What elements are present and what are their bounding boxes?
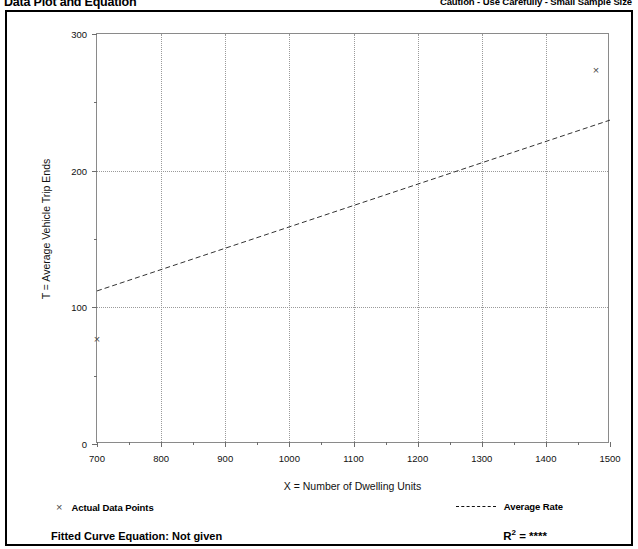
chart-panel: 7008009001000110012001300140015000100200… <box>5 10 633 546</box>
x-axis-tick-label: 1200 <box>407 453 428 464</box>
x-axis-tick-label: 1500 <box>599 453 620 464</box>
x-axis-tick-label: 1100 <box>343 453 363 464</box>
legend-label-actual-data-points: Actual Data Points <box>71 502 153 513</box>
caution-note: Caution - Use Carefully - Small Sample S… <box>440 0 632 7</box>
y-axis-tick-label: 100 <box>71 302 87 313</box>
y-axis-tick-label: 0 <box>82 439 87 450</box>
x-axis-tick-label: 1000 <box>279 453 300 464</box>
legend-row-markers: × Actual Data Points Average Rate <box>7 501 631 519</box>
x-axis-tick <box>610 442 611 447</box>
y-axis-tick <box>92 444 97 445</box>
r2-number: = **** <box>519 530 547 542</box>
x-axis-tick-label: 800 <box>153 453 169 464</box>
legend-item-average-rate: Average Rate <box>456 501 563 512</box>
legend-item-actual-data-points: × Actual Data Points <box>56 501 154 513</box>
plot-area: 7008009001000110012001300140015000100200… <box>96 33 609 443</box>
average-rate-trendline <box>97 120 610 291</box>
legend-label-average-rate: Average Rate <box>504 501 563 512</box>
data-point-marker: × <box>593 64 599 75</box>
y-axis-title: T = Average Vehicle Trip Ends <box>40 39 52 419</box>
y-axis-tick-label: 200 <box>71 165 87 176</box>
plot-wrapper: 7008009001000110012001300140015000100200… <box>7 12 631 544</box>
page-title: Data Plot and Equation <box>4 0 136 9</box>
cross-marker-icon: × <box>56 501 62 513</box>
fitted-curve-equation: Fitted Curve Equation: Not given <box>51 530 222 542</box>
r-squared-value: R2 = **** <box>503 528 547 542</box>
average-rate-line <box>97 34 610 444</box>
x-axis-tick-label: 900 <box>217 453 233 464</box>
data-point-marker: × <box>94 333 100 344</box>
dashed-line-icon <box>456 506 496 507</box>
x-axis-tick-label: 1400 <box>535 453 556 464</box>
r2-exponent: 2 <box>512 528 516 537</box>
r2-prefix: R <box>503 530 511 542</box>
legend-row-equation: Fitted Curve Equation: Not given R2 = **… <box>7 530 631 548</box>
x-axis-title: X = Number of Dwelling Units <box>96 480 609 492</box>
y-axis-tick-label: 300 <box>71 29 87 40</box>
x-axis-tick-label: 1300 <box>471 453 492 464</box>
x-axis-tick-label: 700 <box>89 453 105 464</box>
